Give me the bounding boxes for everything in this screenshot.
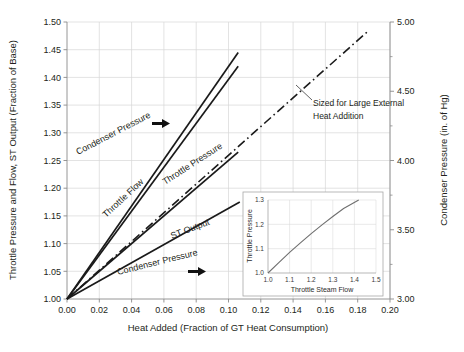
y2-tick-label: 4.00: [397, 156, 415, 166]
inset-y-axis-title: Throttle Pressure: [246, 209, 253, 263]
x-tick-label: 0.02: [91, 305, 109, 315]
inset-x-tick-label: 1.1: [285, 276, 294, 283]
x-tick-label: 0.08: [187, 305, 205, 315]
x-tick-label: 0.10: [220, 305, 238, 315]
y2-tick-label: 3.50: [397, 225, 415, 235]
inset-x-axis-title: Throttle Steam Flow: [291, 286, 355, 293]
y-tick-label: 1.05: [43, 267, 61, 277]
y2-tick-label: 4.50: [397, 86, 415, 96]
chart-svg: 0.000.020.040.060.080.100.120.140.160.18…: [0, 0, 464, 352]
x-tick-label: 0.00: [58, 305, 76, 315]
chart-figure: 0.000.020.040.060.080.100.120.140.160.18…: [0, 0, 464, 352]
inset-chart: 1.01.11.21.31.41.5 1.01.11.21.3 Throttle…: [243, 192, 383, 296]
inset-y-tick-label: 1.0: [255, 269, 264, 276]
y2-axis-title: Condenser Pressure (in. of Hg): [438, 94, 449, 225]
inset-y-tick-label: 1.2: [255, 221, 264, 228]
annotation-line-2: Heat Addition: [313, 111, 364, 121]
y-tick-label: 1.45: [43, 45, 61, 55]
y-tick-label: 1.40: [43, 73, 61, 83]
y-axis-title: Throttle Pressure and Flow, ST Output (F…: [7, 40, 18, 280]
y-tick-label: 1.10: [43, 239, 61, 249]
inset-x-tick-label: 1.0: [263, 276, 272, 283]
y2-tick-label: 5.00: [397, 17, 415, 27]
x-tick-label: 0.04: [123, 305, 141, 315]
y-tick-label: 1.25: [43, 156, 61, 166]
x-axis-title: Heat Added (Fraction of GT Heat Consumpt…: [128, 322, 328, 333]
inset-x-tick-label: 1.5: [371, 276, 380, 283]
x-tick-label: 0.12: [252, 305, 270, 315]
y2-tick-label: 3.00: [397, 294, 415, 304]
x-tick-label: 0.18: [349, 305, 367, 315]
y-tick-label: 1.50: [43, 17, 61, 27]
inset-x-tick-label: 1.3: [328, 276, 337, 283]
x-tick-label: 0.06: [155, 305, 173, 315]
inset-x-tick-label: 1.2: [307, 276, 316, 283]
x-tick-label: 0.14: [284, 305, 302, 315]
y-tick-label: 1.20: [43, 183, 61, 193]
x-tick-label: 0.20: [381, 305, 399, 315]
inset-y-tick-label: 1.3: [255, 196, 264, 203]
x-tick-label: 0.16: [317, 305, 335, 315]
annotation-line-1: Sized for Large External: [313, 98, 404, 108]
y-tick-label: 1.30: [43, 128, 61, 138]
y-tick-label: 1.35: [43, 100, 61, 110]
y-tick-label: 1.00: [43, 294, 61, 304]
inset-y-tick-label: 1.1: [255, 245, 264, 252]
y-tick-label: 1.15: [43, 211, 61, 221]
inset-x-tick-label: 1.4: [350, 276, 359, 283]
